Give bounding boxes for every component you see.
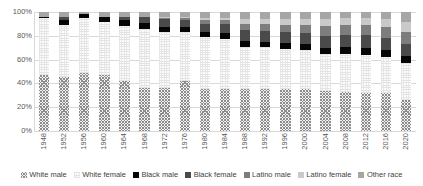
bar-segment-latino-male — [381, 27, 391, 38]
bar-segment-black-female — [220, 24, 230, 34]
bar-segment-white-female — [79, 18, 89, 73]
bar-segment-white-female — [220, 39, 230, 89]
bar-segment-white-male — [79, 73, 89, 131]
stacked-bar-chart: 0%20%40%60%80%100% 194819521956196019641… — [0, 0, 423, 186]
bar-segment-latino-male — [340, 25, 350, 35]
bar-segment-latino-female — [361, 18, 371, 25]
bar-column — [139, 12, 149, 131]
legend-item-other-race[interactable]: Other race — [358, 171, 402, 179]
bar-segment-latino-female — [280, 19, 290, 25]
bar-column — [401, 12, 411, 131]
bar-segment-other-race — [79, 12, 89, 14]
bar-segment-latino-male — [180, 18, 190, 20]
bar-segment-other-race — [280, 12, 290, 19]
bar-segment-white-female — [381, 57, 391, 93]
bar-segment-white-female — [300, 50, 310, 89]
bar-segment-white-male — [119, 81, 129, 131]
legend-item-black-male[interactable]: Black male — [133, 171, 178, 179]
bar-segment-black-male — [401, 56, 411, 63]
y-axis-tick-label: 0% — [0, 127, 32, 135]
bar-segment-black-female — [119, 17, 129, 21]
bar-stack — [59, 12, 69, 131]
x-axis-tick-label: 2008 — [342, 133, 350, 150]
bar-segment-white-female — [159, 32, 169, 88]
plot-area — [34, 12, 416, 131]
legend-swatch-latino-female — [298, 172, 304, 178]
legend-item-white-male[interactable]: White male — [21, 171, 67, 179]
legend-item-latino-female[interactable]: Latino female — [298, 171, 352, 179]
bar-segment-latino-female — [381, 19, 391, 27]
bar-column — [340, 12, 350, 131]
bar-segment-black-female — [401, 44, 411, 56]
bar-segment-other-race — [300, 12, 310, 19]
bar-segment-latino-male — [220, 20, 230, 24]
gridline — [34, 131, 416, 132]
bar-stack — [200, 12, 210, 131]
x-axis-tick-label: 2020 — [402, 133, 410, 150]
bar-segment-other-race — [260, 12, 270, 19]
bar-segment-black-female — [320, 36, 330, 48]
bar-stack — [240, 12, 250, 131]
bar-stack — [119, 12, 129, 131]
bar-segment-white-female — [200, 37, 210, 89]
bar-segment-white-female — [180, 32, 190, 81]
bar-segment-white-male — [361, 93, 371, 131]
bar-segment-white-male — [180, 81, 190, 131]
bar-segment-black-male — [361, 48, 371, 55]
bar-segment-white-female — [260, 47, 270, 90]
bar-stack — [99, 12, 109, 131]
x-axis-tick-label: 1996 — [281, 133, 289, 150]
bar-segment-other-race — [139, 12, 149, 17]
bar-column — [300, 12, 310, 131]
legend-swatch-black-male — [133, 172, 139, 178]
bar-segment-latino-male — [320, 26, 330, 36]
x-axis-tick-label: 1968 — [141, 133, 149, 150]
bar-stack — [180, 12, 190, 131]
y-axis-tick-label: 40% — [0, 80, 32, 88]
bar-column — [240, 12, 250, 131]
bar-segment-white-female — [59, 25, 69, 77]
bar-column — [320, 12, 330, 131]
legend-item-latino-male[interactable]: Latino male — [244, 171, 291, 179]
bar-segment-black-male — [220, 33, 230, 39]
bar-segment-latino-male — [200, 20, 210, 24]
bar-stack — [280, 12, 290, 131]
x-axis-tick-label: 2000 — [301, 133, 309, 150]
bar-segment-white-male — [200, 89, 210, 131]
bar-segment-white-male — [280, 89, 290, 131]
bar-segment-latino-female — [220, 18, 230, 20]
bar-segment-black-male — [260, 42, 270, 47]
x-axis-tick-label: 1956 — [80, 133, 88, 150]
bar-segment-white-male — [300, 89, 310, 131]
bar-segment-other-race — [39, 12, 49, 17]
bar-segment-white-female — [280, 49, 290, 89]
bar-segment-other-race — [159, 12, 169, 17]
bar-column — [39, 12, 49, 131]
bar-segment-other-race — [340, 12, 350, 18]
bar-segment-latino-male — [260, 24, 270, 31]
chart-legend: White maleWhite femaleBlack maleBlack fe… — [0, 167, 423, 183]
bar-segment-latino-male — [300, 25, 310, 33]
bar-segment-black-male — [320, 48, 330, 54]
legend-item-black-female[interactable]: Black female — [185, 171, 236, 179]
bar-segment-black-male — [79, 14, 89, 18]
bar-stack — [300, 12, 310, 131]
bar-segment-other-race — [381, 12, 391, 19]
legend-item-white-female[interactable]: White female — [74, 171, 126, 179]
bar-segment-white-female — [119, 26, 129, 81]
bar-segment-latino-female — [240, 19, 250, 24]
y-axis-tick-label: 60% — [0, 56, 32, 64]
bar-segment-latino-male — [280, 25, 290, 32]
legend-label-black-male: Black male — [141, 171, 178, 179]
bar-segment-other-race — [220, 12, 230, 18]
bar-column — [119, 12, 129, 131]
bar-segment-black-female — [280, 32, 290, 43]
bar-segment-black-male — [280, 43, 290, 49]
bar-stack — [381, 12, 391, 131]
bar-segment-white-male — [401, 100, 411, 131]
bar-segment-latino-female — [260, 19, 270, 24]
bar-stack — [260, 12, 270, 131]
bar-segment-white-female — [39, 18, 49, 75]
bar-series-container — [34, 12, 416, 131]
bar-segment-white-female — [139, 29, 149, 89]
